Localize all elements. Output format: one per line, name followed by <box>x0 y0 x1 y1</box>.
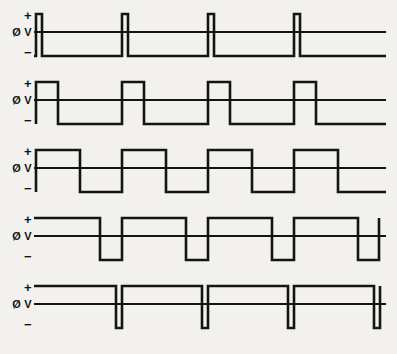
waveform-svg-4 <box>34 204 397 272</box>
waveform-svg-1 <box>34 0 397 68</box>
axis-label-positive: + <box>24 214 32 225</box>
axis-label-zero-volt: Ø V <box>12 27 32 38</box>
axis-label-zero-volt: Ø V <box>12 95 32 106</box>
axis-label-positive: + <box>24 146 32 157</box>
waveform-plot-3 <box>34 136 397 204</box>
waveform-row-3: + Ø V − <box>0 136 397 204</box>
axis-labels-row-1: + Ø V − <box>0 0 34 68</box>
waveform-trace-1 <box>34 14 386 56</box>
axis-labels-row-4: + Ø V − <box>0 204 34 272</box>
axis-label-positive: + <box>24 10 32 21</box>
axis-label-positive: + <box>24 282 32 293</box>
waveform-trace-2 <box>36 82 386 124</box>
waveform-plot-1 <box>34 0 397 68</box>
waveform-plot-4 <box>34 204 397 272</box>
axis-label-negative: − <box>24 319 32 330</box>
axis-label-negative: − <box>24 115 32 126</box>
axis-labels-row-3: + Ø V − <box>0 136 34 204</box>
axis-label-positive: + <box>24 78 32 89</box>
axis-label-negative: − <box>24 47 32 58</box>
waveform-plot-2 <box>34 68 397 136</box>
waveform-trace-3 <box>36 150 386 192</box>
axis-label-negative: − <box>24 251 32 262</box>
axis-label-negative: − <box>24 183 32 194</box>
axis-label-zero-volt: Ø V <box>12 299 32 310</box>
waveform-svg-2 <box>34 68 397 136</box>
waveform-row-2: + Ø V − <box>0 68 397 136</box>
waveform-figure: + Ø V − + Ø V − + Ø V − <box>0 0 397 354</box>
waveform-svg-3 <box>34 136 397 204</box>
waveform-row-1: + Ø V − <box>0 0 397 68</box>
axis-labels-row-5: + Ø V − <box>0 272 34 340</box>
waveform-plot-5 <box>34 272 397 340</box>
waveform-row-5: + Ø V − <box>0 272 397 340</box>
axis-label-zero-volt: Ø V <box>12 231 32 242</box>
waveform-trace-5 <box>34 286 380 328</box>
waveform-trace-4 <box>34 218 379 260</box>
waveform-row-4: + Ø V − <box>0 204 397 272</box>
axis-label-zero-volt: Ø V <box>12 163 32 174</box>
axis-labels-row-2: + Ø V − <box>0 68 34 136</box>
waveform-svg-5 <box>34 272 397 340</box>
